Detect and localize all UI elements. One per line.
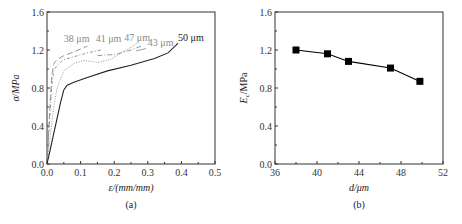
y-tick-label: 0.8 [260, 83, 273, 94]
plot-frame-b [275, 12, 443, 164]
leader-line [136, 49, 146, 51]
y-tick-label: 0.4 [32, 121, 45, 132]
series-annotation: 41 μm [96, 33, 122, 44]
panel-a: 0.00.10.20.30.40.5 0.00.40.81.21.6 38 μm… [10, 7, 221, 212]
y-tick-label: 0.8 [32, 83, 45, 94]
x-tick-label: 0.2 [108, 167, 121, 178]
y-tick-label: 1.2 [260, 45, 273, 56]
y-tick-label: 1.6 [260, 7, 273, 18]
data-point-marker [293, 47, 300, 54]
y-axis-label-a: σ/MPa [10, 74, 21, 101]
series-line-41-um [47, 50, 101, 164]
caption-b: (b) [353, 199, 365, 211]
data-point-marker [387, 65, 394, 72]
series-line-Ec [296, 50, 420, 81]
y-tick-label: 0.0 [260, 159, 273, 170]
x-tick-label: 48 [396, 167, 406, 178]
x-tick-label: 52 [438, 167, 448, 178]
x-tick-label: 40 [312, 167, 322, 178]
figure: 0.00.10.20.30.40.5 0.00.40.81.21.6 38 μm… [0, 0, 462, 224]
series-line-38-um [47, 46, 87, 164]
y-axis-label-b: Ec/MPa [238, 72, 251, 104]
data-point-marker [416, 78, 423, 85]
series-line-50-um [47, 43, 178, 164]
y-tick-label: 0.4 [260, 121, 273, 132]
series-annotation: 43 μm [148, 37, 174, 48]
x-axis-label-b: d/μm [349, 182, 369, 193]
data-point-marker [345, 58, 352, 65]
series-annotation: 50 μm [178, 32, 204, 43]
caption-a: (a) [125, 199, 136, 211]
x-tick-label: 0.4 [175, 167, 188, 178]
x-tick-label: 0.5 [209, 167, 222, 178]
y-axis-label-b-rest: /MPa [238, 72, 249, 94]
x-tick-label: 44 [354, 167, 364, 178]
x-tick-label: 0.1 [74, 167, 87, 178]
data-point-marker [324, 50, 331, 57]
panel-b: 3640444852 0.00.40.81.21.6 d/μm Ec/MPa (… [238, 7, 448, 212]
y-axis-label-b-main: E [238, 97, 249, 104]
series-annotation: 47 μm [124, 32, 150, 43]
x-axis-label-a: ε/(mm/mm) [108, 182, 154, 194]
series-annotation: 38 μm [64, 33, 90, 44]
x-tick-label: 0.3 [142, 167, 155, 178]
y-tick-label: 0.0 [32, 159, 45, 170]
y-tick-label: 1.6 [32, 7, 45, 18]
y-tick-label: 1.2 [32, 45, 45, 56]
